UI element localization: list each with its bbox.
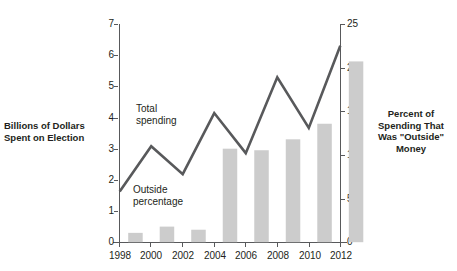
bar-2000 [160,227,175,243]
bar-2010 [317,124,332,242]
bar-2008 [286,139,301,242]
bar-2004 [223,149,238,243]
plot-area [0,0,457,271]
election-spending-chart: Billions of Dollars Spent on Election Pe… [0,0,457,271]
bar-1998 [128,233,143,242]
bar-2006 [254,150,269,242]
bar-2012 [349,61,364,242]
bar-2002 [191,230,206,242]
